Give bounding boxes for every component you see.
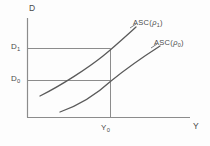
y-tick-d0-subscript: 0 — [17, 78, 21, 84]
y-tick-d1-subscript: 1 — [17, 46, 21, 52]
x-axis-label: Y — [193, 122, 199, 131]
curve-label-asc-rho0: ASC(ρ0) — [154, 39, 184, 48]
curve-asc-rho1 — [40, 27, 136, 96]
curve-label-asc-rho1: ASC(ρ1) — [133, 19, 163, 28]
y-tick-label-d1: D1 — [11, 43, 21, 52]
curve0-prefix: ASC( — [154, 38, 173, 47]
curve1-prefix: ASC( — [133, 18, 152, 27]
y-axis-label: D — [29, 4, 35, 13]
curve1-suffix: ) — [160, 18, 163, 27]
chart-figure: D Y D1 D0 Y0 ASC(ρ1) ASC(ρ0) — [0, 0, 210, 146]
curve0-suffix: ) — [181, 38, 184, 47]
y-tick-label-d0: D0 — [11, 75, 21, 84]
x-tick-label-y0: Y0 — [101, 124, 110, 133]
x-tick-y0-subscript: 0 — [107, 127, 111, 133]
